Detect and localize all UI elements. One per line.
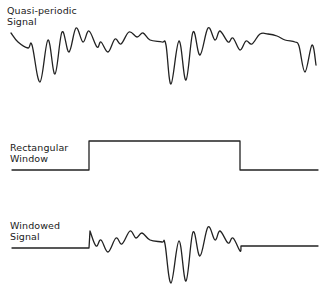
windowed-signal-waveform (12, 227, 318, 283)
waveform-diagram (0, 0, 332, 297)
quasi-periodic-waveform (11, 28, 316, 84)
rectangular-window-waveform (12, 141, 318, 170)
